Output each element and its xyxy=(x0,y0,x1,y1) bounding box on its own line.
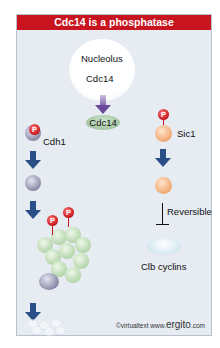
phosphate-icon: P xyxy=(29,124,40,135)
phosphate-icon: P xyxy=(63,207,74,218)
clb-cyclins-label: Clb cyclins xyxy=(141,261,186,272)
release-arrow-icon xyxy=(95,105,111,114)
nucleolus-cdc14-label: Cdc14 xyxy=(86,73,113,84)
degraded-fragments xyxy=(27,319,65,333)
credit-suffix: .com xyxy=(191,322,205,329)
phosphate-stem xyxy=(52,225,53,235)
apc-subunit xyxy=(65,267,81,283)
sic1-protein xyxy=(155,125,172,142)
sic1-label: Sic1 xyxy=(177,128,195,139)
cdh1-dephospho xyxy=(25,175,41,191)
diagram-panel: Cdc14 is a phosphatase Nucleolus Cdc14 C… xyxy=(16,14,212,336)
down-arrow-icon xyxy=(155,158,171,167)
nucleolus xyxy=(69,39,135,101)
clb-cyclins xyxy=(147,237,181,255)
cdc14-free: Cdc14 xyxy=(86,115,120,130)
nucleolus-label: Nucleolus xyxy=(81,53,123,64)
phosphate-stem xyxy=(68,217,69,227)
diagram-title: Cdc14 is a phosphatase xyxy=(17,15,211,30)
inhibition-line xyxy=(162,203,163,225)
apc-subunit xyxy=(75,237,91,253)
cdh1-label: Cdh1 xyxy=(43,136,66,147)
credit-prefix: ©virtualtext www. xyxy=(116,322,166,329)
cdh1-bound xyxy=(39,273,59,290)
phosphate-icon: P xyxy=(47,215,58,226)
reversible-label: Reversible xyxy=(167,206,212,217)
sic1-dephospho xyxy=(155,177,172,194)
down-arrow-icon xyxy=(25,160,41,169)
credit-text: ©virtualtext www.ergito.com xyxy=(116,319,205,330)
down-arrow-icon xyxy=(25,210,41,219)
inhibition-bar-icon xyxy=(156,224,169,225)
phosphate-icon: P xyxy=(158,109,169,120)
credit-brand: ergito xyxy=(166,319,191,330)
apc-subunit xyxy=(59,243,75,259)
